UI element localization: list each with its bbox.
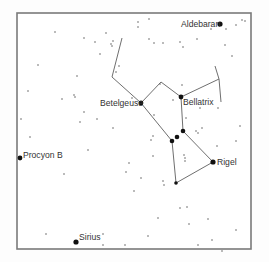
dim-star-icon — [87, 149, 89, 151]
dim-star-icon — [45, 233, 47, 235]
label-rigel: Rigel — [217, 157, 237, 167]
dim-star-icon — [231, 55, 233, 57]
dim-star-icon — [152, 135, 154, 137]
dim-star-icon — [224, 44, 226, 46]
star-rigel-icon — [210, 159, 215, 164]
label-bellatrix: Bellatrix — [183, 97, 214, 107]
dim-star-icon — [181, 84, 183, 86]
dim-star-icon — [112, 127, 114, 129]
dim-star-icon — [197, 132, 199, 134]
dim-star-icon — [124, 244, 126, 246]
star-chart: Aldebaran Betelgeuse Bellatrix Rigel Pro… — [0, 0, 269, 262]
dim-star-icon — [128, 162, 130, 164]
dim-star-icon — [239, 125, 241, 127]
dim-star-icon — [140, 177, 142, 179]
dim-star-icon — [162, 180, 164, 182]
dim-star-icon — [83, 111, 85, 113]
label-betelgeuse: Betelgeuse — [100, 98, 143, 108]
star-procyon-b-icon — [18, 156, 23, 161]
dim-star-icon — [137, 26, 139, 28]
dim-star-icon — [244, 20, 246, 22]
bright-star-icon — [174, 181, 178, 185]
dim-star-icon — [20, 118, 22, 120]
dim-star-icon — [27, 90, 29, 92]
dim-star-icon — [148, 18, 150, 20]
dim-star-icon — [241, 19, 243, 21]
bright-star-icon — [170, 139, 175, 144]
dim-star-icon — [76, 75, 78, 77]
dim-star-icon — [73, 94, 75, 96]
dim-star-icon — [185, 117, 187, 119]
dim-star-icon — [54, 31, 56, 33]
dim-star-icon — [207, 218, 209, 220]
dim-star-icon — [186, 206, 188, 208]
dim-star-icon — [184, 157, 186, 159]
dim-star-icon — [235, 140, 237, 142]
dim-star-icon — [102, 244, 104, 246]
dim-star-icon — [148, 38, 150, 40]
dim-star-icon — [83, 37, 85, 39]
dim-star-icon — [235, 229, 237, 231]
dim-star-icon — [183, 154, 185, 156]
dim-star-icon — [216, 145, 218, 147]
dim-star-icon — [153, 114, 155, 116]
dim-star-icon — [94, 41, 96, 43]
dim-star-icon — [195, 130, 197, 132]
dim-star-icon — [172, 99, 174, 101]
dim-star-icon — [163, 184, 165, 186]
dim-star-icon — [133, 190, 135, 192]
dim-star-icon — [112, 40, 114, 42]
dim-star-icon — [102, 233, 104, 235]
dim-star-icon — [157, 217, 159, 219]
dim-star-icon — [111, 45, 113, 47]
dim-star-icon — [74, 96, 76, 98]
dim-star-icon — [37, 64, 39, 66]
dim-star-icon — [118, 65, 120, 67]
dim-star-icon — [196, 38, 198, 40]
dim-star-icon — [115, 71, 117, 73]
bright-star-icon — [181, 129, 186, 134]
star-sirius-icon — [73, 239, 78, 244]
bright-star-icon — [175, 135, 180, 140]
dim-star-icon — [110, 43, 112, 45]
label-sirius: Sirius — [79, 232, 101, 242]
star-map-canvas: Aldebaran Betelgeuse Bellatrix Rigel Pro… — [0, 0, 269, 262]
dim-star-icon — [211, 239, 213, 241]
dim-star-icon — [152, 155, 154, 157]
dim-star-icon — [153, 42, 155, 44]
dim-star-icon — [29, 136, 31, 138]
dim-star-icon — [217, 107, 219, 109]
dim-star-icon — [221, 250, 223, 252]
label-aldebaran: Aldebaran — [181, 19, 220, 29]
dim-star-icon — [182, 46, 184, 48]
dim-star-icon — [137, 21, 139, 23]
dim-star-icon — [199, 107, 201, 109]
label-procyon-b: Procyon B — [23, 150, 63, 160]
dim-star-icon — [150, 139, 152, 141]
dim-star-icon — [79, 121, 81, 123]
dim-star-icon — [235, 24, 237, 26]
dim-star-icon — [125, 171, 127, 173]
dim-star-icon — [61, 98, 63, 100]
dim-star-icon — [179, 41, 181, 43]
chart-frame — [17, 13, 251, 249]
dim-star-icon — [105, 32, 107, 34]
dim-star-icon — [63, 173, 65, 175]
dim-star-icon — [188, 223, 190, 225]
dim-star-icon — [179, 207, 181, 209]
dim-star-icon — [225, 28, 227, 30]
dim-star-icon — [184, 160, 186, 162]
dim-star-icon — [201, 127, 203, 129]
dim-star-icon — [147, 235, 149, 237]
dim-star-icon — [162, 42, 164, 44]
dim-star-icon — [99, 53, 101, 55]
dim-star-icon — [197, 244, 199, 246]
dim-star-icon — [159, 83, 161, 85]
dim-star-icon — [96, 118, 98, 120]
